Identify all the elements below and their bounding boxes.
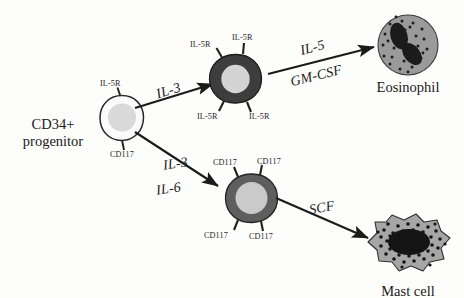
mast-precursor-stalk-bottomleft bbox=[234, 220, 238, 230]
mast-precursor-stalk-topleft bbox=[234, 167, 238, 177]
receptor-label-cd117-progenitor: CD117 bbox=[110, 150, 134, 159]
cell-eosinophil-precursor bbox=[209, 43, 261, 112]
receptor-label-il5r-d: IL-5R bbox=[249, 112, 270, 121]
receptor-label-cd117-d: CD117 bbox=[249, 232, 273, 241]
progenitor-label-line2: progenitor bbox=[12, 133, 94, 150]
receptor-label-il5r-b: IL-5R bbox=[232, 33, 253, 42]
cell-mast-precursor bbox=[225, 165, 277, 231]
receptor-label-il5r-c: IL-5R bbox=[197, 112, 218, 121]
differentiation-diagram: CD34+ progenitor IL-5R CD117 IL-5R IL-5R… bbox=[0, 0, 464, 298]
eos-precursor-stalk-bottomleft bbox=[219, 101, 224, 111]
progenitor-label-line1: CD34+ bbox=[12, 116, 94, 133]
cell-mast-cell bbox=[368, 214, 450, 271]
eos-precursor-nucleus bbox=[221, 65, 249, 93]
mast-cell-label: Mast cell bbox=[362, 283, 454, 298]
eos-precursor-stalk-bottomright bbox=[247, 102, 251, 112]
eosinophil-label: Eosinophil bbox=[362, 79, 454, 95]
eos-precursor-stalk-topleft bbox=[217, 48, 223, 58]
cell-cd34-progenitor bbox=[100, 88, 144, 151]
progenitor-label: CD34+ progenitor bbox=[12, 116, 94, 151]
progenitor-cd117-stalk bbox=[122, 140, 124, 150]
receptor-label-il5r-a: IL-5R bbox=[190, 40, 211, 49]
mast-precursor-nucleus bbox=[236, 182, 268, 214]
progenitor-nucleus bbox=[108, 104, 136, 132]
receptor-label-cd117-b: CD117 bbox=[257, 157, 281, 166]
cell-eosinophil bbox=[378, 15, 438, 75]
receptor-label-il5r-progenitor: IL-5R bbox=[100, 79, 121, 88]
receptor-label-cd117-a: CD117 bbox=[213, 158, 237, 167]
eos-precursor-stalk-top bbox=[243, 43, 244, 54]
mast-precursor-stalk-top bbox=[260, 165, 262, 175]
mast-precursor-stalk-bottom bbox=[261, 221, 263, 231]
receptor-label-cd117-c: CD117 bbox=[204, 231, 228, 240]
